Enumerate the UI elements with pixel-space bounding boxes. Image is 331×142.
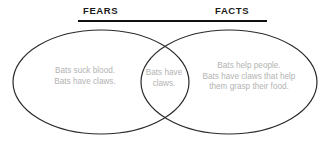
venn-region-text-intersection: Bats have claws. xyxy=(136,68,192,89)
venn-region-text-facts-only: Bats help people. Bats have claws that h… xyxy=(186,61,312,93)
venn-region-text-fears-only: Bats suck blood. Bats have claws. xyxy=(24,66,146,87)
header-label-facts: FACTS xyxy=(215,5,249,16)
header-divider-rule xyxy=(78,20,267,22)
venn-diagram-figure: FEARS FACTS Bats suck blood. Bats have c… xyxy=(0,0,331,142)
header-label-fears: FEARS xyxy=(83,5,118,16)
diagram-header: FEARS FACTS xyxy=(0,0,331,24)
